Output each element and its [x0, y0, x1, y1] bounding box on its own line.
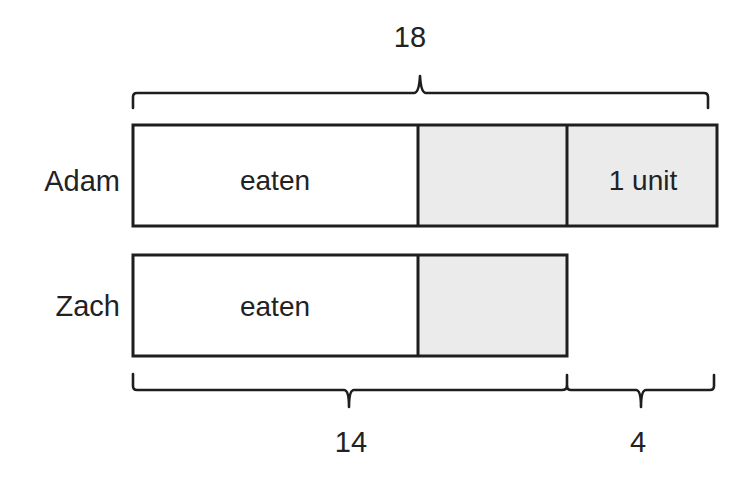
bottom-brace-4-label: 4	[630, 426, 646, 458]
adam-segment-shaded	[418, 125, 567, 226]
adam-segment-eaten-label: eaten	[240, 165, 310, 196]
bottom-brace-14	[133, 374, 567, 407]
top-brace-label: 18	[394, 21, 426, 53]
zach-segment-shaded	[418, 255, 567, 356]
zach-segment-eaten-label: eaten	[240, 291, 310, 322]
row-label-adam: Adam	[44, 165, 120, 197]
bottom-brace-4	[567, 375, 714, 407]
top-brace	[133, 76, 708, 108]
bottom-brace-14-label: 14	[335, 426, 367, 458]
zach-row: Zach eaten	[56, 255, 567, 356]
row-label-zach: Zach	[56, 290, 120, 322]
tape-diagram: 18 Adam eaten 1 unit Zach eaten 14 4	[0, 0, 747, 481]
adam-row: Adam eaten 1 unit	[44, 125, 717, 226]
adam-segment-one-unit-label: 1 unit	[609, 165, 678, 196]
